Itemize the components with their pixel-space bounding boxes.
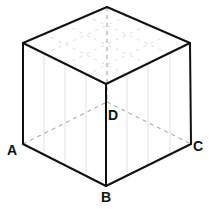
vertex-label-a: A [7, 142, 17, 158]
vertex-label-b: B [101, 189, 111, 205]
edge-right-vertical [190, 43, 191, 144]
vertex-label-d: D [108, 107, 118, 123]
hidden-edge-d-c [107, 102, 191, 144]
cube-diagram: A B C D [0, 0, 209, 209]
edge-b-c [106, 144, 191, 186]
edge-a-b [23, 144, 106, 186]
vertex-label-c: C [193, 138, 203, 154]
